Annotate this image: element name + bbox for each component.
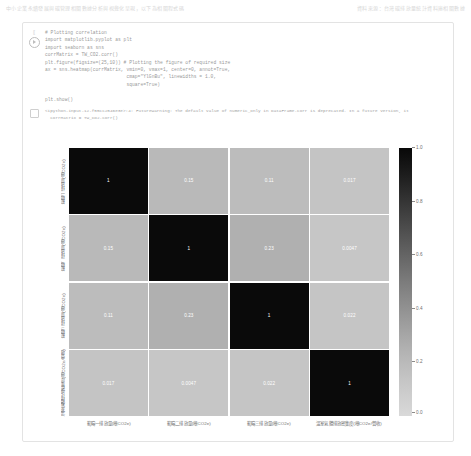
- heatmap-cell: 0.0047: [149, 350, 228, 416]
- colorbar-tick: 0.0: [412, 410, 423, 415]
- heatmap-cell: 1: [69, 148, 148, 214]
- tick-mark-icon: [412, 201, 415, 202]
- heatmap-cell: 0.017: [69, 350, 148, 416]
- output-collapse-icon[interactable]: [30, 109, 39, 118]
- x-tick-label: 溫室氣體排放密集度(噸CO2e/營收): [309, 420, 389, 426]
- heatmap-cell: 1: [230, 283, 309, 349]
- heatmap-colorbar: 1.0 0.8 0.6 0.4 0.2 0.0: [399, 148, 459, 416]
- heatmap-cell: 0.017: [310, 148, 389, 214]
- code-input-cell[interactable]: ⟦ # Plotting correlation import matplotl…: [23, 23, 453, 103]
- heatmap-x-axis-labels: 範疇一排放量(噸CO2e) 範疇二排放量(噸CO2e) 範疇三排放量(噸CO2e…: [69, 420, 389, 426]
- x-tick-label: 範疇二排放量(噸CO2e): [149, 420, 229, 426]
- collapse-bracket-icon[interactable]: ⟦: [33, 30, 35, 35]
- heatmap-y-axis-labels: 範疇一排放量(噸CO2e) 範疇二排放量(噸CO2e) 範疇三排放量(噸CO2e…: [51, 148, 67, 416]
- y-tick-label: 範疇三排放量(噸CO2e): [51, 282, 67, 349]
- run-cell-icon[interactable]: [29, 37, 40, 48]
- heatmap-cell: 0.15: [69, 215, 148, 281]
- page-top-strip: 中小企業永續發展與碳管理相關數據分析與視覺化呈現，以下為相關程式碼 資料來源：台…: [0, 0, 471, 14]
- heatmap-grid: 1 0.15 0.11 0.017 0.15 1 0.23 0.0047 0.1…: [69, 148, 389, 416]
- top-strip-right-text: 資料來源：台灣碳排放量統計資料庫相關數據: [357, 4, 465, 11]
- heatmap-cell: 0.23: [230, 215, 309, 281]
- heatmap-cell: 0.15: [149, 148, 228, 214]
- heatmap-cell: 0.022: [230, 350, 309, 416]
- heatmap-cell: 0.11: [230, 148, 309, 214]
- colorbar-tick: 0.4: [412, 306, 423, 311]
- colorbar-tick: 1.0: [412, 145, 423, 150]
- colorbar-tick: 0.2: [412, 359, 423, 364]
- y-tick-label: 範疇一排放量(噸CO2e): [51, 148, 67, 215]
- heatmap-cell: 1: [149, 215, 228, 281]
- tick-mark-icon: [412, 147, 415, 148]
- tick-mark-icon: [412, 254, 415, 255]
- code-cell-gutter: ⟦: [23, 29, 45, 48]
- colorbar-tick: 0.8: [412, 199, 423, 204]
- output-cell-gutter: [23, 108, 45, 118]
- top-strip-left-text: 中小企業永續發展與碳管理相關數據分析與視覺化呈現，以下為相關程式碼: [6, 4, 184, 11]
- colorbar-tick: 0.6: [412, 252, 423, 257]
- tick-mark-icon: [412, 308, 415, 309]
- warning-output-cell: <ipython-input-12-f55cc2546e3e>:4: Futur…: [23, 108, 453, 121]
- tick-mark-icon: [412, 412, 415, 413]
- notebook-cell-container: ⟦ # Plotting correlation import matplotl…: [22, 22, 454, 442]
- y-tick-label: 範疇二排放量(噸CO2e): [51, 215, 67, 282]
- colorbar-gradient: [399, 148, 412, 416]
- heatmap-cell: 1: [310, 350, 389, 416]
- correlation-heatmap-figure: 範疇一排放量(噸CO2e) 範疇二排放量(噸CO2e) 範疇三排放量(噸CO2e…: [45, 141, 471, 456]
- heatmap-cell: 0.11: [69, 283, 148, 349]
- heatmap-cell: 0.022: [310, 283, 389, 349]
- x-tick-label: 範疇一排放量(噸CO2e): [69, 420, 149, 426]
- future-warning-text: <ipython-input-12-f55cc2546e3e>:4: Futur…: [45, 108, 453, 121]
- tick-mark-icon: [412, 361, 415, 362]
- code-editor-text[interactable]: # Plotting correlation import matplotlib…: [45, 29, 453, 103]
- heatmap-cell: 0.23: [149, 283, 228, 349]
- heatmap-cell: 0.0047: [310, 215, 389, 281]
- y-tick-label: 溫室氣體排放密集度(噸CO2e/營收): [51, 349, 67, 416]
- x-tick-label: 範疇三排放量(噸CO2e): [229, 420, 309, 426]
